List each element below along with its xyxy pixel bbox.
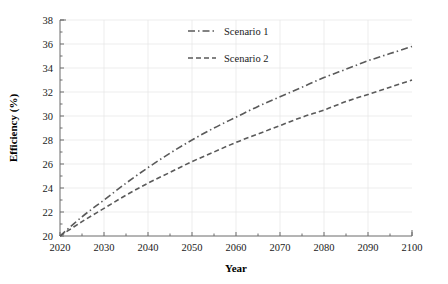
- x-tick-label: 2050: [182, 242, 203, 253]
- y-tick-label: 34: [43, 63, 54, 74]
- y-axis-title: Efficiency (%): [7, 94, 20, 162]
- chart-figure: 202020302040205020602070208020902100 202…: [0, 0, 448, 284]
- y-tick-label: 36: [43, 39, 54, 50]
- y-tick-labels: 20222426283032343638: [43, 15, 54, 242]
- x-tick-label: 2070: [270, 242, 291, 253]
- y-tick-label: 30: [43, 111, 54, 122]
- x-tick-label: 2030: [94, 242, 115, 253]
- x-tick-label: 2020: [50, 242, 71, 253]
- y-tick-label: 24: [43, 183, 54, 194]
- y-tick-label: 32: [43, 87, 54, 98]
- x-tick-label: 2060: [226, 242, 247, 253]
- x-tick-labels: 202020302040205020602070208020902100: [50, 242, 423, 253]
- x-axis-title: Year: [225, 262, 247, 274]
- legend-label-1: Scenario 1: [224, 26, 269, 37]
- chart-legend: Scenario 1Scenario 2: [188, 26, 269, 64]
- x-tick-label: 2100: [402, 242, 423, 253]
- x-tick-label: 2080: [314, 242, 335, 253]
- y-tick-label: 28: [43, 135, 54, 146]
- y-tick-label: 22: [43, 207, 54, 218]
- efficiency-line-chart: 202020302040205020602070208020902100 202…: [0, 0, 448, 284]
- x-tick-label: 2090: [358, 242, 379, 253]
- legend-label-2: Scenario 2: [224, 53, 269, 64]
- y-tick-label: 20: [43, 231, 54, 242]
- y-tick-label: 26: [43, 159, 54, 170]
- y-tick-label: 38: [43, 15, 54, 26]
- x-tick-label: 2040: [138, 242, 159, 253]
